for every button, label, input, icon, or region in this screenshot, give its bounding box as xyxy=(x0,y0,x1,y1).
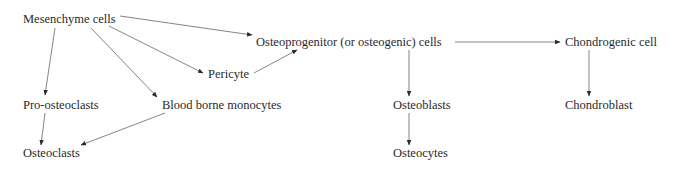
node-chondroblast: Chondroblast xyxy=(565,98,632,112)
node-osteocytes: Osteocytes xyxy=(393,146,448,160)
edge-mesenchyme-pericyte xyxy=(109,26,203,73)
edge-mesenchyme-osteoprogenitor xyxy=(120,16,252,35)
node-mesenchyme-cells: Mesenchyme cells xyxy=(23,12,116,26)
edge-pro-osteoclasts-osteoclasts xyxy=(41,113,45,145)
node-chondrogenic-cell: Chondrogenic cell xyxy=(565,35,657,49)
edge-mesenchyme-pro-osteoclasts xyxy=(45,28,55,95)
node-pro-osteoclasts: Pro-osteoclasts xyxy=(23,98,99,112)
edge-monocytes-osteoclasts xyxy=(81,113,165,145)
node-blood-borne-monocytes: Blood borne monocytes xyxy=(162,98,281,112)
node-osteoblasts: Osteoblasts xyxy=(393,98,451,112)
node-pericyte: Pericyte xyxy=(208,67,249,81)
node-osteoclasts: Osteoclasts xyxy=(23,146,80,160)
edge-mesenchyme-monocytes xyxy=(91,28,157,97)
edge-pericyte-osteoprogenitor xyxy=(254,50,297,73)
cell-lineage-diagram: Mesenchyme cells Osteoprogenitor (or ost… xyxy=(0,0,681,171)
node-osteoprogenitor-cells: Osteoprogenitor (or osteogenic) cells xyxy=(256,35,442,49)
